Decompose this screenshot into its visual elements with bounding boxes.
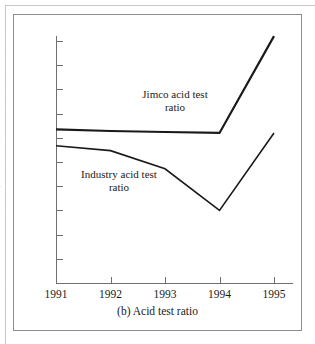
figure-page: 00.10.20.30.40.50.60.70.80.91.0 19911992… (0, 0, 315, 344)
series-label-industry-line1: Industry acid test (81, 168, 157, 180)
series-label-jimco-line2: ratio (165, 101, 185, 113)
series-label-industry-line2: ratio (109, 181, 129, 193)
series-line-jimco (56, 36, 274, 133)
series-label-jimco-line1: Jimco acid test (142, 88, 207, 100)
series-label-industry: Industry acid testratio (56, 168, 182, 194)
series-label-jimco: Jimco acid testratio (112, 88, 238, 114)
figure-caption: (b) Acid test ratio (13, 305, 302, 317)
